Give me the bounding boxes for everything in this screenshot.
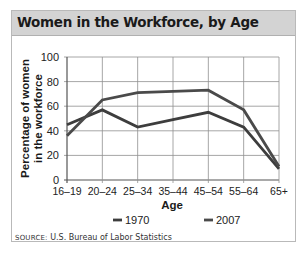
x-axis-ticks: 16–1920–2425–3435–4445–5455–6465+ <box>52 185 288 197</box>
y-axis-title-line: Percentage of women <box>19 59 31 178</box>
legend-label: 2007 <box>216 214 240 226</box>
x-tick-label: 16–19 <box>52 185 81 197</box>
x-tick-label: 45–54 <box>194 185 223 197</box>
legend-item-2007: 2007 <box>204 214 240 226</box>
y-axis-title-line: in the workforce <box>32 74 44 163</box>
x-tick-label: 65+ <box>270 185 288 197</box>
legend-item-1970: 1970 <box>113 214 149 226</box>
line-chart: 020406080100 16–1920–2425–3435–4445–5455… <box>0 0 305 258</box>
y-tick-label: 60 <box>47 100 59 112</box>
legend-label: 1970 <box>125 214 149 226</box>
y-tick-label: 100 <box>41 51 59 63</box>
x-axis-label: Age <box>161 199 183 211</box>
x-tick-label: 25–34 <box>123 185 152 197</box>
y-tick-label: 20 <box>47 149 59 161</box>
y-tick-label: 80 <box>47 76 59 88</box>
x-tick-label: 20–24 <box>88 185 117 197</box>
x-tick-label: 55–64 <box>229 185 258 197</box>
x-axis-title: Age <box>161 199 183 211</box>
y-axis-label: Percentage of womenin the workforce <box>19 59 44 178</box>
x-tick-label: 35–44 <box>158 185 187 197</box>
y-tick-label: 40 <box>47 125 59 137</box>
legend: 19702007 <box>113 214 240 226</box>
